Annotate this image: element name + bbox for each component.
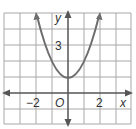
x-tick-neg2: −2 (26, 96, 40, 110)
x-axis-label: x (119, 96, 127, 110)
origin-label: O (55, 96, 64, 110)
graph: y 3 −2 O 2 x (0, 0, 136, 129)
y-axis-label: y (54, 11, 62, 25)
x-tick-2: 2 (96, 96, 103, 110)
y-tick-3: 3 (55, 39, 62, 53)
